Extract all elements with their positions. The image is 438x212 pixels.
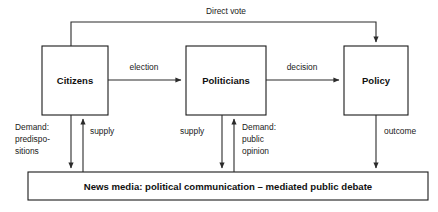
edge-label-supply-politicians: supply: [180, 126, 205, 136]
diagram-canvas: Citizens Politicians Policy News media: …: [0, 0, 438, 212]
edge-label-supply-citizens: supply: [90, 126, 115, 136]
edge-label-outcome: outcome: [384, 126, 416, 136]
edge-label-demand-predispositions-line3: sitions: [15, 146, 39, 156]
node-policy-label: Policy: [362, 75, 391, 86]
node-citizens-label: Citizens: [57, 75, 93, 86]
edge-direct-vote: [71, 22, 376, 46]
edge-label-demand-public-opinion-line1: Demand:: [242, 122, 276, 132]
edge-label-decision: decision: [287, 62, 318, 72]
news-media-label: News media: political communication – me…: [84, 181, 372, 192]
edge-label-direct-vote: Direct vote: [206, 6, 246, 16]
edge-label-demand-public-opinion-line2: public: [242, 134, 264, 144]
diagram-svg: Citizens Politicians Policy News media: …: [0, 0, 438, 212]
node-politicians-label: Politicians: [202, 75, 250, 86]
edge-label-election: election: [130, 62, 159, 72]
edge-label-demand-predispositions-line1: Demand:: [15, 122, 49, 132]
edge-label-demand-public-opinion-line3: opinion: [242, 146, 269, 156]
edge-label-demand-predispositions-line2: predispo-: [15, 134, 50, 144]
